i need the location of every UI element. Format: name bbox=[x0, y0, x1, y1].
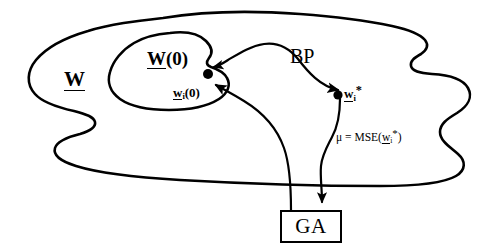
outer-region-boundary bbox=[29, 12, 470, 186]
mse-annotation: μ = MSE(wi*) bbox=[336, 128, 402, 144]
bp-label: BP bbox=[290, 46, 314, 66]
point-label-wi-star-asterisk: * bbox=[356, 83, 362, 97]
ga-label: GA bbox=[295, 214, 326, 239]
point-wi-star bbox=[333, 90, 342, 99]
outer-region-label-text: W bbox=[64, 70, 85, 91]
outer-region-label: W bbox=[64, 69, 85, 91]
inner-region-label: W(0) bbox=[147, 49, 188, 69]
ga-box: GA bbox=[280, 210, 342, 243]
diagram-vector-layer bbox=[0, 0, 501, 251]
point-label-wi-star-base: w bbox=[344, 88, 353, 101]
diagram-canvas: W W(0) wi(0) BP wi* μ = MSE(wi*) GA bbox=[0, 0, 501, 251]
point-label-wi-zero-suffix: (0) bbox=[185, 85, 200, 100]
point-label-wi-zero: wi(0) bbox=[173, 86, 200, 101]
point-label-wi-star: wi* bbox=[344, 84, 362, 102]
mse-annotation-suffix: ) bbox=[398, 131, 402, 143]
point-wi-zero bbox=[203, 69, 213, 79]
bp-trajectory-arrow bbox=[214, 44, 338, 90]
ga-feedback-arrow bbox=[216, 85, 291, 210]
inner-region-label-w: W bbox=[147, 50, 166, 69]
point-label-wi-zero-base: w bbox=[173, 87, 182, 100]
inner-region-label-arg: (0) bbox=[166, 48, 188, 69]
mse-annotation-prefix: μ = MSE( bbox=[336, 131, 382, 143]
mse-annotation-base: w bbox=[382, 132, 390, 144]
